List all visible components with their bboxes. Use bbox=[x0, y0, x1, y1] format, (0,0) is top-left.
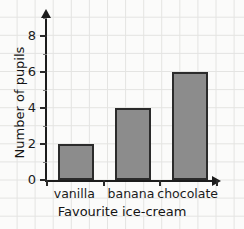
plot-area bbox=[46, 18, 216, 180]
x-axis-label-chocolate: chocolate bbox=[153, 187, 222, 201]
y-axis-tick-label: 0 bbox=[12, 173, 36, 186]
x-axis-tick bbox=[46, 180, 48, 186]
bar-banana bbox=[115, 108, 151, 180]
bar-chocolate bbox=[172, 72, 208, 180]
bar-chart: 02468 vanillabananachocolate Favourite i… bbox=[0, 0, 244, 229]
x-axis-line bbox=[45, 180, 213, 182]
x-axis-title: Favourite ice-cream bbox=[0, 204, 244, 219]
y-axis-title: Number of pupils bbox=[12, 33, 27, 173]
x-axis-tick bbox=[103, 180, 105, 186]
bar-vanilla bbox=[58, 144, 94, 180]
